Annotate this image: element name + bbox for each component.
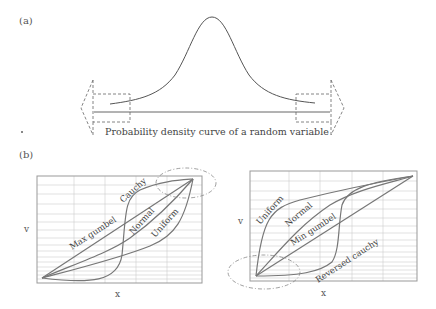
left-chart: Cauchy Max gumbel Normal Uniform xyxy=(37,168,216,283)
right-chart: Uniform Normal Min gumbel Reversed cauch… xyxy=(228,171,417,289)
bell-curve xyxy=(110,17,315,104)
right-arrow-icon xyxy=(331,80,344,135)
label-uniform-right: Uniform xyxy=(254,193,285,226)
label-reversed-cauchy: Reversed cauchy xyxy=(314,236,381,284)
left-chart-grid xyxy=(37,176,202,283)
right-tail-box xyxy=(296,94,331,122)
label-cauchy: Cauchy xyxy=(118,175,149,204)
figure-canvas: Cauchy Max gumbel Normal Uniform xyxy=(0,0,436,309)
left-tail-box xyxy=(93,94,130,122)
left-arrow-icon xyxy=(81,80,93,135)
pdf-diagram xyxy=(81,17,344,135)
